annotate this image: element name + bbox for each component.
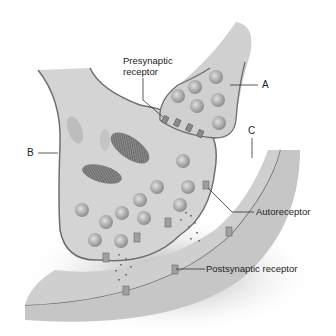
axon-terminal-a <box>160 22 252 138</box>
label-postsynaptic-receptor: Postsynaptic receptor <box>206 263 297 274</box>
label-a: A <box>262 79 269 90</box>
label-c: C <box>248 125 255 136</box>
autoreceptor-shape <box>203 181 209 189</box>
label-presynaptic-line1: Presynaptic <box>123 55 173 66</box>
label-autoreceptor: Autoreceptor <box>256 206 310 217</box>
synapse-diagram: Presynaptic receptor A B C Autoreceptor … <box>0 0 336 336</box>
label-presynaptic-line2: receptor <box>123 66 158 77</box>
postsynaptic-receptor-shape <box>172 265 178 274</box>
synapse-illustration <box>0 0 336 336</box>
label-b: B <box>27 147 34 158</box>
